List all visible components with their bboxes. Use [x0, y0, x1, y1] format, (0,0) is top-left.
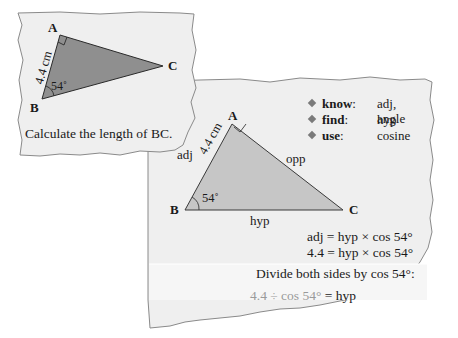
q-vertex-b-label: B	[30, 100, 39, 116]
diagram-stage: know: adj, angle find: hyp use: cosine A…	[0, 0, 458, 338]
q-angle-label: 54˚	[51, 79, 67, 94]
q-vertex-a-label: A	[48, 20, 57, 36]
question-card	[0, 0, 458, 338]
question-prompt: Calculate the length of BC.	[25, 126, 172, 142]
q-vertex-c-label: C	[168, 58, 177, 74]
